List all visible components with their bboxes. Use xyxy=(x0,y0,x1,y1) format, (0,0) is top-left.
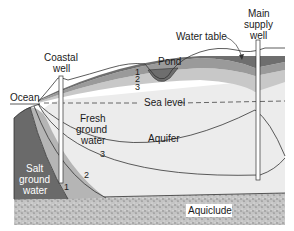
groundwater-diagram: Coastal well Main supply well Water tabl… xyxy=(0,0,294,231)
layer-number-3: 3 xyxy=(135,82,140,92)
coastal-well-label: Coastal well xyxy=(44,52,81,74)
main-supply-well-label: Main supply well xyxy=(244,8,276,41)
ocean-label: Ocean xyxy=(10,92,39,103)
water-table-label: Water table xyxy=(176,31,227,42)
coastal-well xyxy=(59,76,63,183)
pond-label: Pond xyxy=(158,56,181,67)
main-supply-well xyxy=(256,40,260,180)
interface-number-1: 1 xyxy=(64,182,69,192)
aquiclude-label: Aquiclude xyxy=(188,205,232,216)
interface-number-3: 3 xyxy=(100,149,105,159)
aquifer-label: Aquifer xyxy=(148,133,180,144)
interface-number-2: 2 xyxy=(84,170,89,180)
sea-level-label: Sea level xyxy=(144,97,185,108)
diagram-svg: Coastal well Main supply well Water tabl… xyxy=(0,0,294,231)
water-table-arrow xyxy=(226,37,242,58)
fresh-ground-water-label: Fresh ground water xyxy=(76,113,110,146)
